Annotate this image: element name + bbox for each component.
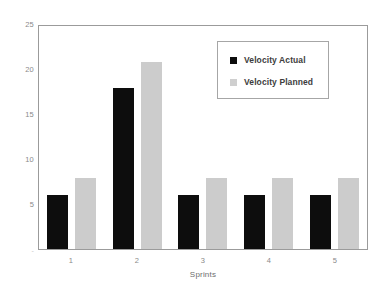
bar-actual-1 <box>47 195 68 249</box>
legend-item-velocity-actual: Velocity Actual <box>230 49 328 71</box>
legend-label-velocity-planned: Velocity Planned <box>244 77 313 87</box>
y-tick-15: 15 <box>4 111 34 119</box>
bar-planned-2 <box>141 62 162 249</box>
bar-group-sprint-2 <box>105 26 171 249</box>
bar-actual-5 <box>310 195 331 249</box>
y-axis: 25 20 15 10 5 - <box>0 0 34 291</box>
y-tick-10: 10 <box>4 156 34 164</box>
x-tick-2: 2 <box>104 256 170 265</box>
x-tick-4: 4 <box>236 256 302 265</box>
legend-item-velocity-planned: Velocity Planned <box>230 71 328 93</box>
bar-planned-1 <box>75 178 96 249</box>
x-axis: 1 2 3 4 5 <box>38 256 368 265</box>
velocity-bar-chart: 25 20 15 10 5 - <box>0 0 380 291</box>
legend-label-velocity-actual: Velocity Actual <box>244 55 306 65</box>
bar-actual-2 <box>113 88 134 249</box>
y-tick-25: 25 <box>4 21 34 29</box>
x-tick-5: 5 <box>302 256 368 265</box>
bar-actual-3 <box>178 195 199 249</box>
bar-actual-4 <box>244 195 265 249</box>
chart-legend: Velocity Actual Velocity Planned <box>217 41 329 99</box>
y-tick-5: 5 <box>4 201 34 209</box>
x-tick-1: 1 <box>38 256 104 265</box>
black-square-swatch-icon <box>230 57 237 64</box>
y-tick-20: 20 <box>4 66 34 74</box>
bar-planned-5 <box>338 178 359 249</box>
bar-planned-4 <box>272 178 293 249</box>
x-tick-3: 3 <box>170 256 236 265</box>
bar-planned-3 <box>206 178 227 249</box>
bar-group-sprint-1 <box>39 26 105 249</box>
x-axis-title: Sprints <box>38 270 368 279</box>
y-tick-zero: - <box>4 247 34 254</box>
gray-square-swatch-icon <box>230 79 237 86</box>
